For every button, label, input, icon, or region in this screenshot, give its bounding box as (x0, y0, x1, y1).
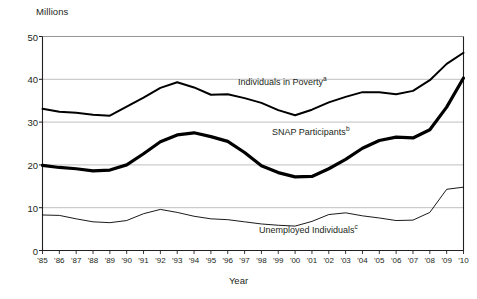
x-tick-label: '92 (155, 256, 165, 265)
x-tick-label: '04 (357, 256, 367, 265)
x-tick-label: '90 (121, 256, 131, 265)
x-tick-label: '01 (307, 256, 317, 265)
x-tick-label: '99 (273, 256, 283, 265)
chart-container: Millions 01020304050 '85'86'87'88'89'90'… (0, 0, 477, 299)
series-label-footnote: c (355, 223, 358, 230)
x-tick-label: '97 (239, 256, 249, 265)
x-tick-label: '98 (256, 256, 266, 265)
x-tick-label: '89 (105, 256, 115, 265)
x-tick-label: '87 (71, 256, 81, 265)
series-label-snap-participants: SNAP Participantsb (272, 127, 350, 137)
series-label-footnote: b (346, 125, 350, 132)
x-tick-label: '91 (138, 256, 148, 265)
x-tick-label: '03 (340, 256, 350, 265)
x-tick-label: '88 (88, 256, 98, 265)
series-label-footnote: a (323, 75, 327, 82)
x-tick-label: '02 (324, 256, 334, 265)
x-tick-label: '86 (54, 256, 64, 265)
series-label-text: Unemployed Individuals (259, 225, 355, 235)
x-axis-title: Year (0, 275, 477, 286)
x-tick-label: '05 (374, 256, 384, 265)
x-tick-label: '08 (425, 256, 435, 265)
x-tick-label: '07 (408, 256, 418, 265)
x-tick-label: '00 (290, 256, 300, 265)
series-label-text: Individuals in Poverty (238, 77, 323, 87)
x-tick-label: '93 (172, 256, 182, 265)
x-tick-label: '95 (206, 256, 216, 265)
x-tick-label: '06 (391, 256, 401, 265)
x-axis-tick-labels: '85'86'87'88'89'90'91'92'93'94'95'96'97'… (0, 0, 477, 299)
x-tick-label: '96 (223, 256, 233, 265)
series-label-individuals-in-poverty: Individuals in Povertya (238, 77, 327, 87)
series-label-text: SNAP Participants (272, 127, 346, 137)
x-tick-label: '85 (37, 256, 47, 265)
x-tick-label: '10 (458, 256, 468, 265)
x-tick-label: '94 (189, 256, 199, 265)
series-label-unemployed-individuals: Unemployed Individualsc (259, 225, 358, 235)
x-tick-label: '09 (441, 256, 451, 265)
